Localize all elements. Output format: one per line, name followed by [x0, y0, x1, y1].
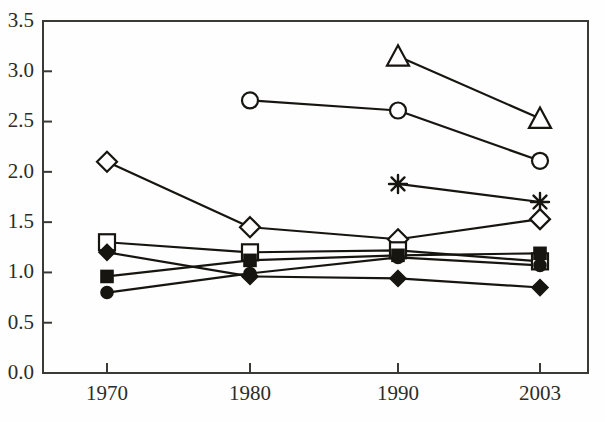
marker-filled-square — [101, 270, 113, 282]
y-tick-label: 3.0 — [8, 58, 34, 82]
y-tick-label: 2.0 — [8, 159, 34, 183]
y-tick-label: 0.0 — [8, 360, 34, 384]
marker-filled-circle — [244, 267, 256, 279]
marker-open-triangle — [387, 45, 409, 65]
marker-filled-circle — [101, 287, 113, 299]
marker-asterisk — [389, 175, 407, 193]
marker-open-triangle — [529, 108, 551, 128]
marker-open-diamond — [530, 209, 550, 229]
x-tick-label: 1990 — [377, 381, 419, 405]
series-line-open-triangle — [398, 56, 540, 118]
y-tick-label: 2.5 — [8, 108, 34, 132]
y-tick-label: 3.5 — [8, 8, 34, 32]
marker-open-circle — [242, 92, 258, 108]
x-tick-label: 1970 — [86, 381, 128, 405]
marker-open-diamond — [97, 152, 117, 172]
marker-open-circle — [390, 103, 406, 119]
marker-filled-square — [534, 247, 546, 259]
marker-open-circle — [532, 153, 548, 169]
x-tick-label: 2003 — [519, 381, 561, 405]
chart-canvas: 0.00.51.01.52.02.53.03.51970198019902003 — [0, 0, 605, 422]
x-tick-label: 1980 — [229, 381, 271, 405]
y-tick-label: 1.5 — [8, 209, 34, 233]
series-line-open-diamond — [107, 162, 540, 239]
y-tick-label: 1.0 — [8, 259, 34, 283]
marker-filled-circle — [392, 251, 404, 263]
series-line-asterisk — [398, 184, 540, 202]
marker-open-diamond — [240, 217, 260, 237]
y-tick-label: 0.5 — [8, 310, 34, 334]
marker-filled-square — [244, 254, 256, 266]
marker-filled-circle — [534, 259, 546, 271]
marker-filled-diamond — [390, 270, 406, 286]
line-chart: 0.00.51.01.52.02.53.03.51970198019902003 — [0, 0, 605, 422]
marker-filled-diamond — [532, 280, 548, 296]
